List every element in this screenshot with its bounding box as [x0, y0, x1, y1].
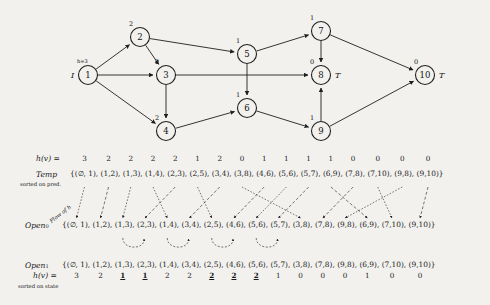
h-row-value: 2	[214, 154, 226, 163]
open1-row-label: Open	[25, 261, 45, 270]
propagation-arc	[123, 238, 144, 247]
h-row-value: 1	[303, 154, 315, 163]
open1-pair-item: (5,6),	[248, 260, 268, 269]
graph-node-6: 61	[236, 91, 257, 118]
open1-pair-item: (4,6),	[226, 260, 246, 269]
open0-pair-item: (7,8),	[315, 220, 335, 229]
h-row-value: 0	[347, 154, 359, 163]
flow-arrow	[101, 187, 109, 218]
h-row-value: 2	[169, 154, 181, 163]
h-row-value: 0	[236, 154, 248, 163]
node-h-value: 1	[310, 14, 314, 22]
goal-marker: T	[439, 71, 445, 80]
h-row-value: 1	[280, 154, 292, 163]
temp-pair-item: (5,6),	[278, 169, 298, 178]
start-h-label: h=3	[77, 58, 88, 64]
flow-arrow	[153, 187, 167, 218]
open1-row-subscript: 1	[45, 263, 48, 269]
open0-pair-item: (2,3),	[137, 220, 157, 229]
propagation-arc	[256, 238, 277, 247]
node-label: 6	[244, 103, 249, 113]
h-row-label: h(v) =	[36, 154, 60, 163]
graph-edge	[330, 81, 414, 126]
h-row-value: 0	[422, 154, 434, 163]
open0-pair-item: (3,8),	[293, 220, 313, 229]
node-label: 1	[85, 70, 90, 80]
open1-pair-item: (2,3),	[137, 260, 157, 269]
node-h-value: 1	[236, 37, 240, 45]
open0-pair-item: (1,2),	[93, 220, 113, 229]
graph-node-4: 42	[155, 114, 176, 141]
open1-value: 1	[139, 271, 151, 280]
graph-edge	[96, 81, 155, 124]
open1-pair-item: (1,4),	[159, 260, 179, 269]
graph-node-10: 100T	[414, 58, 445, 85]
temp-pair-item: (9,10)}	[417, 169, 444, 178]
temp-pair-item: (1,4),	[145, 169, 165, 178]
temp-pair-item: (5,7),	[301, 169, 321, 178]
h-row-value: 2	[103, 154, 115, 163]
open1-value: 2	[228, 271, 240, 280]
temp-pair-item: (7,10),	[367, 169, 392, 178]
open1-value: 2	[183, 271, 195, 280]
graph-edge	[96, 45, 129, 69]
temp-pair-item: (3,8),	[234, 169, 254, 178]
open1-value: 2	[250, 271, 262, 280]
graph-edge	[257, 35, 309, 51]
temp-pair-item: (9,8),	[394, 169, 414, 178]
open1-value: 0	[295, 271, 307, 280]
propagation-arc	[212, 238, 233, 247]
flow-arrow	[197, 187, 211, 218]
open1-pair-item: (5,7),	[270, 260, 290, 269]
start-marker: I	[70, 71, 75, 80]
flow-arrow	[331, 187, 367, 218]
open0-pair-item: (9,8),	[337, 220, 357, 229]
h-row-value: 0	[396, 154, 408, 163]
node-h-value: 2	[129, 20, 133, 28]
open0-pair-item: (3,4),	[182, 220, 202, 229]
open0-pair-item: (9,10)}	[409, 220, 436, 229]
node-h-value: 0	[414, 58, 418, 66]
graph-node-7: 71	[310, 14, 331, 41]
open1-value: 0	[339, 271, 351, 280]
open0-row-subscript: 0	[45, 223, 48, 229]
graph-edge	[330, 35, 413, 70]
open0-pair-item: (4,6),	[226, 220, 246, 229]
temp-pair-item: (7,8),	[345, 169, 365, 178]
graph-nodes: 1Ih=322324251617180T91100T	[70, 14, 445, 141]
flow-arrow	[76, 187, 84, 218]
temp-row-pairs: {(∅, 1), (1,2), (1,3), (1,4), (2,3), (2,…	[70, 169, 444, 178]
flow-arrow	[345, 187, 402, 218]
open1-pair-item: (6,9),	[359, 260, 379, 269]
open1-value: 1	[272, 271, 284, 280]
graph-node-3: 32	[155, 58, 176, 85]
open1-value: 2	[161, 271, 173, 280]
open0-pair-item: (1,3),	[115, 220, 135, 229]
open1-value: 1	[117, 271, 129, 280]
open1-pair-item: (2,5),	[204, 260, 224, 269]
graph-node-1: 1Ih=3	[70, 58, 98, 85]
open1-row: Open1	[25, 261, 49, 270]
graph-node-2: 22	[129, 20, 150, 47]
open1-h-label: h(v) =	[33, 271, 57, 280]
h-row-label-text: h(v) =	[36, 154, 60, 163]
open1-pair-item: (7,8),	[315, 260, 335, 269]
open0-pair-item: (7,10),	[382, 220, 407, 229]
flow-arrow	[420, 187, 428, 218]
open0-pair-item: (5,6),	[248, 220, 268, 229]
open1-value: 0	[317, 271, 329, 280]
node-h-value: 2	[155, 58, 159, 66]
flow-arrow	[234, 187, 264, 218]
open1-pair-item: (3,4),	[182, 260, 202, 269]
open1-row-pairs: {(∅, 1), (1,2), (1,3), (2,3), (1,4), (3,…	[62, 260, 436, 269]
open1-value: 2	[206, 271, 218, 280]
open1-row-note: sorted on state	[18, 283, 58, 289]
state-graph: 1Ih=322324251617180T91100T	[0, 0, 490, 160]
open0-pair-item: (6,9),	[359, 220, 379, 229]
open0-row-pairs: {(∅, 1), (1,2), (1,3), (2,3), (1,4), (3,…	[62, 220, 436, 229]
h-row-value: 1	[191, 154, 203, 163]
open1-value: 3	[70, 271, 82, 280]
temp-pair-item: (2,5),	[190, 169, 210, 178]
graph-node-5: 51	[236, 37, 257, 64]
node-label: 5	[244, 49, 249, 59]
